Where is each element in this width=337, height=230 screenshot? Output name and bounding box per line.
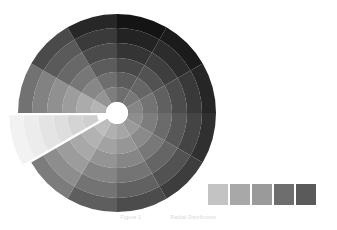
legend	[208, 184, 316, 205]
center-hole	[106, 102, 128, 124]
caption-left: Figure 1	[121, 214, 142, 220]
legend-swatch-4[interactable]	[274, 184, 294, 205]
legend-swatch-5[interactable]	[296, 184, 316, 205]
figure-container: Figure 1 Radial Distribution	[0, 0, 337, 230]
caption-right: Radial Distribution	[171, 214, 217, 220]
figure-caption: Figure 1 Radial Distribution	[0, 214, 337, 221]
legend-swatch-3[interactable]	[252, 184, 272, 205]
legend-swatch-1[interactable]	[208, 184, 228, 205]
legend-swatch-2[interactable]	[230, 184, 250, 205]
